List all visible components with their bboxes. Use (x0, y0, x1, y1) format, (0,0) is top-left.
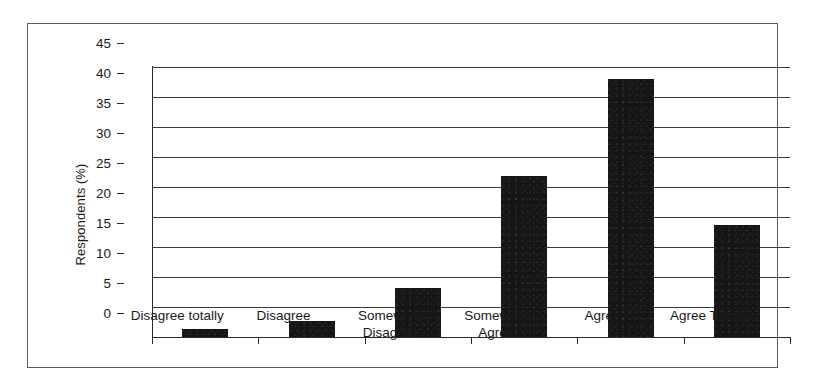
y-tick-label: 45 (71, 36, 111, 51)
x-tick-mark (790, 337, 791, 344)
figure-canvas: Respondents (%) 051015202530354045 Disag… (0, 0, 816, 392)
gridline (152, 217, 790, 218)
x-tick-mark (258, 337, 259, 344)
y-tick-label: 30 (71, 126, 111, 141)
y-tick-mark (117, 223, 124, 224)
bar (182, 329, 228, 337)
gridline (152, 67, 790, 68)
gridline (152, 187, 790, 188)
y-tick-label: 15 (71, 216, 111, 231)
y-tick-label: 25 (71, 156, 111, 171)
gridline (152, 157, 790, 158)
y-tick-mark (117, 43, 124, 44)
y-tick-mark (117, 283, 124, 284)
y-tick-label: 20 (71, 186, 111, 201)
x-tick-mark (684, 337, 685, 344)
y-tick-label: 35 (71, 96, 111, 111)
y-tick-label: 40 (71, 66, 111, 81)
y-tick-mark (117, 193, 124, 194)
gridline (152, 97, 790, 98)
x-tick-label: Agree Totally (646, 307, 772, 324)
figure-frame: Respondents (%) 051015202530354045 Disag… (27, 23, 778, 368)
y-tick-label: 10 (71, 246, 111, 261)
plot-area (152, 67, 790, 337)
x-tick-mark (152, 337, 153, 344)
y-tick-mark (117, 163, 124, 164)
y-tick-mark (117, 133, 124, 134)
bar (608, 79, 654, 337)
x-tick-mark (577, 337, 578, 344)
gridline (152, 127, 790, 128)
y-tick-mark (117, 253, 124, 254)
gridline (152, 247, 790, 248)
y-tick-mark (117, 73, 124, 74)
y-tick-label: 5 (71, 276, 111, 291)
gridline (152, 277, 790, 278)
y-tick-mark (117, 103, 124, 104)
y-tick-label: 0 (71, 306, 111, 321)
